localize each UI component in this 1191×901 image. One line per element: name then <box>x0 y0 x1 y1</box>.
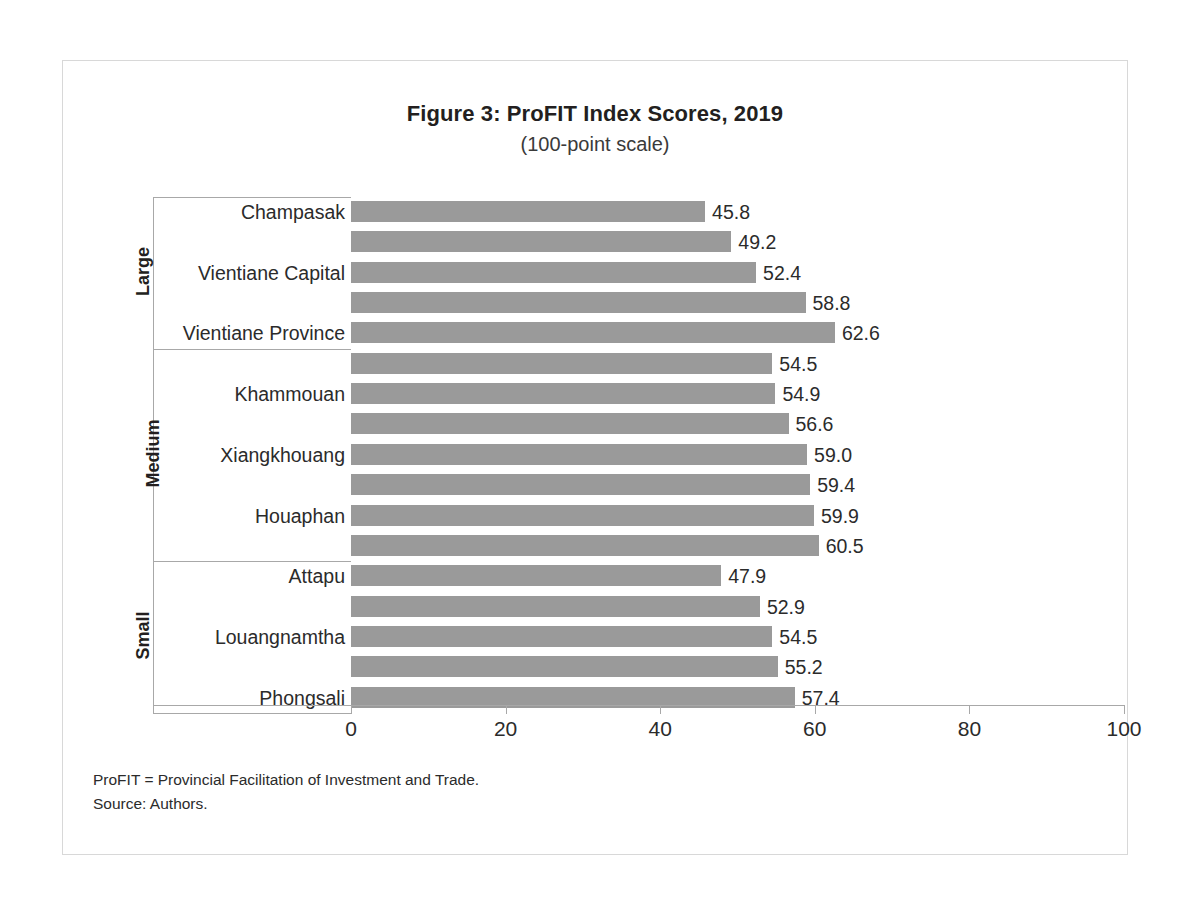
group-label-text: Large <box>133 247 154 296</box>
bar-value-label: 45.8 <box>705 197 750 227</box>
bar-category-label: Houaphan <box>255 501 353 531</box>
bar-value-label: 60.5 <box>819 531 864 561</box>
footnote-line: Source: Authors. <box>93 792 479 816</box>
x-axis-tick <box>660 705 661 714</box>
bar[interactable] <box>351 231 731 252</box>
figure-frame: Figure 3: ProFIT Index Scores, 2019 (100… <box>62 60 1128 855</box>
bar[interactable] <box>351 383 775 404</box>
bar-category-label: Vientiane Province <box>183 318 353 348</box>
bar[interactable] <box>351 626 772 647</box>
bar[interactable] <box>351 596 760 617</box>
bar-row[interactable]: 54.5 <box>93 349 1127 379</box>
bar-value-label: 57.4 <box>795 683 840 713</box>
x-axis-tick <box>969 705 970 714</box>
bar-row[interactable]: Houaphan59.9 <box>93 501 1127 531</box>
bar-category-label: Champasak <box>241 197 353 227</box>
bar-value-label: 49.2 <box>731 227 776 257</box>
bar-category-label: Attapu <box>289 561 353 591</box>
bar-category-label: Xiangkhouang <box>220 440 353 470</box>
bar-row[interactable]: Champasak45.8 <box>93 197 1127 227</box>
group-label-large: Large <box>119 261 153 282</box>
bar[interactable] <box>351 413 789 434</box>
x-axis-tick-label: 100 <box>1106 717 1141 741</box>
title-block: Figure 3: ProFIT Index Scores, 2019 (100… <box>63 101 1127 156</box>
bar-row[interactable]: 52.9 <box>93 592 1127 622</box>
footnotes: ProFIT = Provincial Facilitation of Inve… <box>93 768 479 816</box>
bar[interactable] <box>351 535 819 556</box>
x-axis-tick <box>1124 705 1125 714</box>
group-divider-line <box>153 561 351 562</box>
bar[interactable] <box>351 353 772 374</box>
bar-row[interactable]: Attapu47.9 <box>93 561 1127 591</box>
bar-row[interactable]: Vientiane Province62.6 <box>93 318 1127 348</box>
group-label-text: Small <box>133 612 154 660</box>
group-divider-line <box>153 713 351 714</box>
x-axis-tick <box>815 705 816 714</box>
bar-category-label: Phongsali <box>259 683 353 713</box>
x-axis-tick-label: 20 <box>494 717 517 741</box>
bar-rows-container: Champasak45.849.2Vientiane Capital52.458… <box>93 197 1127 705</box>
bar[interactable] <box>351 565 721 586</box>
bar-value-label: 62.6 <box>835 318 880 348</box>
x-axis-tick-label: 0 <box>345 717 357 741</box>
bar-row[interactable]: Louangnamtha54.5 <box>93 622 1127 652</box>
bar-value-label: 52.9 <box>760 592 805 622</box>
bar-row[interactable]: Phongsali57.4 <box>93 683 1127 713</box>
bar[interactable] <box>351 474 810 495</box>
group-label-small: Small <box>119 625 153 646</box>
bar-value-label: 58.8 <box>806 288 851 318</box>
bar-value-label: 59.9 <box>814 501 859 531</box>
bar-value-label: 54.5 <box>772 622 817 652</box>
bar-category-label: Louangnamtha <box>215 622 353 652</box>
bar[interactable] <box>351 656 778 677</box>
group-label-text: Medium <box>143 419 164 487</box>
bar-row[interactable]: Vientiane Capital52.4 <box>93 258 1127 288</box>
chart-plot-area: Champasak45.849.2Vientiane Capital52.458… <box>93 197 1127 747</box>
group-divider-line <box>153 349 351 350</box>
bar-value-label: 59.0 <box>807 440 852 470</box>
bar-value-label: 54.9 <box>775 379 820 409</box>
group-divider-line <box>153 197 351 198</box>
bar[interactable] <box>351 262 756 283</box>
bar-value-label: 59.4 <box>810 470 855 500</box>
bar[interactable] <box>351 322 835 343</box>
x-axis-tick <box>506 705 507 714</box>
bar-row[interactable]: 55.2 <box>93 652 1127 682</box>
bar-value-label: 54.5 <box>772 349 817 379</box>
bar-value-label: 47.9 <box>721 561 766 591</box>
bar-row[interactable]: Xiangkhouang59.0 <box>93 440 1127 470</box>
bar[interactable] <box>351 444 807 465</box>
bar-row[interactable]: Khammouan54.9 <box>93 379 1127 409</box>
bar[interactable] <box>351 505 814 526</box>
bar-row[interactable]: 58.8 <box>93 288 1127 318</box>
bar-value-label: 55.2 <box>778 652 823 682</box>
bar[interactable] <box>351 201 705 222</box>
bar-row[interactable]: 60.5 <box>93 531 1127 561</box>
bar-row[interactable]: 49.2 <box>93 227 1127 257</box>
x-axis-tick-label: 40 <box>649 717 672 741</box>
bar[interactable] <box>351 292 806 313</box>
x-axis-tick-label: 80 <box>958 717 981 741</box>
bar-category-label: Vientiane Capital <box>198 258 353 288</box>
group-label-medium: Medium <box>119 443 153 464</box>
bar-value-label: 52.4 <box>756 258 801 288</box>
bar-row[interactable]: 56.6 <box>93 409 1127 439</box>
bar-row[interactable]: 59.4 <box>93 470 1127 500</box>
x-axis-tick-label: 60 <box>803 717 826 741</box>
chart-subtitle: (100-point scale) <box>63 133 1127 156</box>
bar-value-label: 56.6 <box>789 409 834 439</box>
footnote-line: ProFIT = Provincial Facilitation of Inve… <box>93 768 479 792</box>
x-axis-line <box>153 705 1124 706</box>
x-axis-tick <box>351 705 352 714</box>
bar-category-label: Khammouan <box>234 379 353 409</box>
page-title: Figure 3: ProFIT Index Scores, 2019 <box>63 101 1127 126</box>
